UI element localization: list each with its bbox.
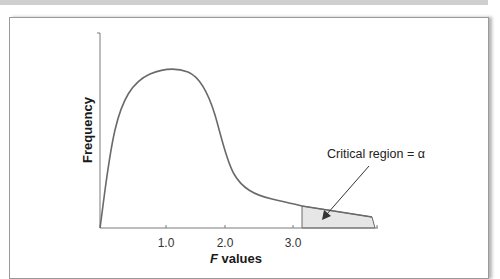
critical-region-shade	[302, 206, 375, 228]
y-axis	[97, 33, 100, 228]
x-axis-variable: F	[210, 251, 218, 266]
x-axis-label: F values	[210, 251, 262, 266]
x-tick-label: 1.0	[158, 236, 175, 250]
x-tick-label: 2.0	[217, 236, 234, 250]
x-axis-label-rest: values	[218, 251, 262, 266]
critical-region-annotation: Critical region = α	[327, 147, 425, 161]
annotation-arrow	[322, 166, 369, 220]
y-axis-label: Frequency	[80, 97, 95, 163]
x-tick-label: 3.0	[285, 236, 302, 250]
